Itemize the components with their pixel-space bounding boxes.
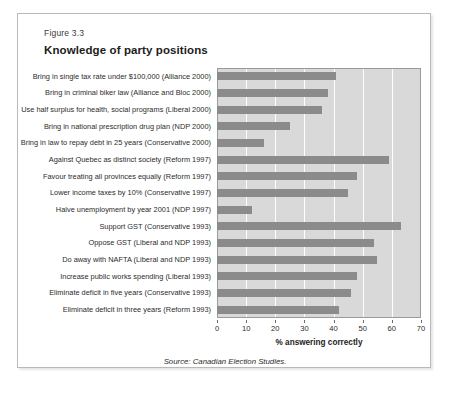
bar — [217, 72, 336, 80]
x-axis-tick — [334, 320, 335, 323]
bar — [217, 106, 322, 114]
bar — [217, 306, 339, 314]
bar-row: Against Quebec as distinct society (Refo… — [217, 151, 421, 168]
x-axis-tick — [304, 320, 305, 323]
category-label: Eliminate deficit in five years (Conserv… — [49, 289, 217, 296]
bar-row: Use half surplus for health, social prog… — [217, 101, 421, 118]
bar-row: Lower income taxes by 10% (Conservative … — [217, 185, 421, 202]
bar-row: Bring in law to repay debt in 25 years (… — [217, 135, 421, 152]
x-axis-tick-label: 0 — [215, 324, 219, 333]
bar-row: Bring in criminal biker law (Alliance an… — [217, 85, 421, 102]
category-label: Eliminate deficit in three years (Reform… — [63, 306, 217, 313]
bar-row: Bring in single tax rate under $100,000 … — [217, 68, 421, 85]
bar — [217, 122, 290, 130]
chart: Bring in single tax rate under $100,000 … — [18, 14, 432, 369]
category-label: Increase public works spending (Liberal … — [60, 273, 217, 280]
x-axis-tick-label: 20 — [271, 324, 279, 333]
figure-card: Figure 3.3 Knowledge of party positions … — [17, 13, 431, 368]
bar — [217, 222, 401, 230]
x-axis-tick-label: 70 — [417, 324, 425, 333]
bar-row: Eliminate deficit in five years (Conserv… — [217, 285, 421, 302]
bar — [217, 172, 357, 180]
bar — [217, 156, 389, 164]
category-label: Favour treating all provinces equally (R… — [43, 173, 217, 180]
bar — [217, 272, 357, 280]
x-axis-tick — [246, 320, 247, 323]
bar — [217, 256, 377, 264]
x-axis-tick-label: 50 — [358, 324, 366, 333]
category-label: Against Quebec as distinct society (Refo… — [49, 156, 217, 163]
bar-row: Favour treating all provinces equally (R… — [217, 168, 421, 185]
bar-row: Halve unemployment by year 2001 (NDP 199… — [217, 201, 421, 218]
category-label: Support GST (Conservative 1993) — [99, 223, 217, 230]
bar — [217, 239, 374, 247]
bar — [217, 289, 351, 297]
source-note: Source: Canadian Election Studies. — [18, 357, 432, 366]
bar — [217, 139, 264, 147]
category-label: Bring in national prescription drug plan… — [44, 123, 217, 130]
gridline — [421, 69, 422, 317]
x-axis-tick — [392, 320, 393, 323]
bar — [217, 189, 348, 197]
bar — [217, 89, 328, 97]
x-axis-tick-label: 30 — [300, 324, 308, 333]
category-label: Use half surplus for health, social prog… — [21, 106, 217, 113]
category-label: Lower income taxes by 10% (Conservative … — [50, 189, 217, 196]
category-label: Halve unemployment by year 2001 (NDP 199… — [56, 206, 217, 213]
bar-row: Oppose GST (Liberal and NDP 1993) — [217, 235, 421, 252]
bar-row: Support GST (Conservative 1993) — [217, 218, 421, 235]
x-axis-title: % answering correctly — [217, 338, 421, 347]
bar-row: Do away with NAFTA (Liberal and NDP 1993… — [217, 251, 421, 268]
bar-row: Increase public works spending (Liberal … — [217, 268, 421, 285]
bar-row: Eliminate deficit in three years (Reform… — [217, 301, 421, 318]
x-axis-tick — [421, 320, 422, 323]
category-label: Oppose GST (Liberal and NDP 1993) — [88, 239, 217, 246]
category-label: Bring in single tax rate under $100,000 … — [33, 73, 217, 80]
x-axis-tick-label: 40 — [329, 324, 337, 333]
x-axis-tick — [217, 320, 218, 323]
x-axis-tick-label: 60 — [388, 324, 396, 333]
x-axis-tick — [275, 320, 276, 323]
x-axis-tick — [363, 320, 364, 323]
bar — [217, 206, 252, 214]
category-label: Bring in criminal biker law (Alliance an… — [45, 89, 217, 96]
category-label: Do away with NAFTA (Liberal and NDP 1993… — [62, 256, 217, 263]
bar-row: Bring in national prescription drug plan… — [217, 118, 421, 135]
category-label: Bring in law to repay debt in 25 years (… — [21, 139, 217, 146]
x-axis-tick-label: 10 — [242, 324, 250, 333]
